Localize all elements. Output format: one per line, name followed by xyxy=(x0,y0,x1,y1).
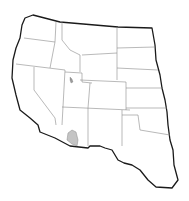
range-map xyxy=(0,0,189,201)
western-us-outline xyxy=(12,15,178,188)
